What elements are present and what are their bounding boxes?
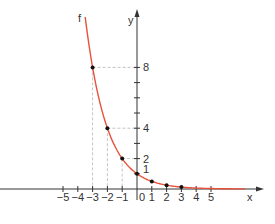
data-point (105, 126, 109, 130)
x-axis-label: x (247, 191, 253, 203)
function-curve (85, 17, 245, 189)
y-axis-label: y (128, 14, 134, 26)
x-tick-label: 0 (139, 191, 145, 203)
x-tick-label: −5 (57, 191, 70, 203)
x-tick-label: −2 (101, 191, 114, 203)
x-axis-arrow-icon (256, 187, 264, 192)
y-tick-label: 4 (143, 122, 149, 134)
exponential-chart: x y −5−4−3−2−1012345 1248 f (0, 0, 275, 224)
x-tick-label: 4 (193, 191, 199, 203)
data-point (179, 185, 183, 189)
guide-lines (93, 67, 137, 189)
data-point (135, 172, 139, 176)
x-tick-label: 5 (208, 191, 214, 203)
y-ticks: 1248 (134, 61, 149, 174)
data-point (165, 183, 169, 187)
y-axis-arrow-icon (135, 9, 140, 17)
axes: x y (0, 9, 264, 203)
function-label: f (78, 12, 82, 24)
data-point (91, 65, 95, 69)
x-tick-label: −3 (86, 191, 99, 203)
x-tick-label: 3 (178, 191, 184, 203)
data-point (150, 179, 154, 183)
x-tick-label: 2 (164, 191, 170, 203)
y-tick-label: 2 (143, 153, 149, 165)
x-tick-label: 1 (149, 191, 155, 203)
x-tick-label: −1 (116, 191, 129, 203)
y-tick-label: 8 (143, 61, 149, 73)
x-tick-label: −4 (72, 191, 85, 203)
data-point (120, 157, 124, 161)
